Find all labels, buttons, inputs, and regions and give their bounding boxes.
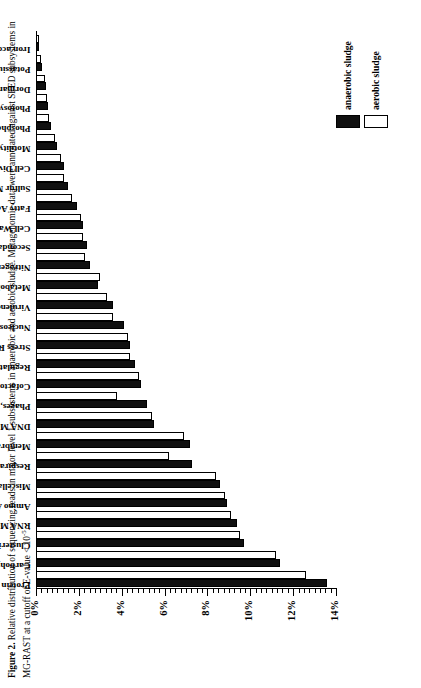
bar-anaerobic[interactable] [36, 400, 147, 408]
bar-group[interactable]: Carbohydrates [36, 548, 336, 568]
bar-anaerobic[interactable] [36, 321, 124, 329]
bar-anaerobic[interactable] [36, 82, 46, 90]
chart-legend: anaerobic sludgeaerobic sludge [336, 0, 392, 128]
bar-group[interactable]: Motility and Chemotaxis [36, 131, 336, 151]
bar-group[interactable]: Nucleosides and Nucleotides [36, 310, 336, 330]
bar-anaerobic[interactable] [36, 301, 113, 309]
bar-group[interactable]: Potassium metabolism [36, 52, 336, 72]
bar-group[interactable]: Clustering-based subsystems [36, 528, 336, 548]
bar-aerobic[interactable] [36, 392, 117, 400]
axis-tick-minor [234, 588, 235, 593]
bar-group[interactable]: Regulation and Cell signaling [36, 350, 336, 370]
bar-anaerobic[interactable] [36, 261, 90, 269]
bar-anaerobic[interactable] [36, 281, 98, 289]
bar-anaerobic[interactable] [36, 420, 154, 428]
bar-aerobic[interactable] [36, 233, 83, 241]
bar-group[interactable]: Secondary Metabolism [36, 231, 336, 251]
bar-anaerobic[interactable] [36, 460, 192, 468]
bar-aerobic[interactable] [36, 571, 306, 579]
bar-group[interactable]: Cell Division and Cell Cycle [36, 151, 336, 171]
bar-aerobic[interactable] [36, 75, 45, 83]
bar-anaerobic[interactable] [36, 43, 39, 51]
bar-group[interactable]: DNA Metabolism [36, 409, 336, 429]
bar-group[interactable]: Phages, Prophages, Transposable elements… [36, 389, 336, 409]
axis-tick-minor [299, 588, 300, 593]
bar-group[interactable]: Sulfur Metabolism [36, 171, 336, 191]
axis-tick-label: 14% [330, 600, 340, 648]
bar-anaerobic[interactable] [36, 499, 227, 507]
bar-anaerobic[interactable] [36, 202, 77, 210]
bar-group[interactable]: Cofactors, Vitamins, Prosthetic Groups, … [36, 370, 336, 390]
axis-tick-minor [84, 588, 85, 593]
bar-anaerobic[interactable] [36, 102, 48, 110]
bar-anaerobic[interactable] [36, 142, 57, 150]
bar-anaerobic[interactable] [36, 559, 280, 567]
bar-aerobic[interactable] [36, 174, 64, 182]
bar-aerobic[interactable] [36, 313, 113, 321]
bar-aerobic[interactable] [36, 452, 169, 460]
bar-anaerobic[interactable] [36, 380, 141, 388]
bar-anaerobic[interactable] [36, 221, 83, 229]
bar-anaerobic[interactable] [36, 440, 190, 448]
bar-anaerobic[interactable] [36, 122, 51, 130]
bar-aerobic[interactable] [36, 253, 85, 261]
legend-item[interactable]: aerobic sludge [364, 0, 388, 128]
bar-aerobic[interactable] [36, 372, 139, 380]
bar-group[interactable]: RNA Metabolism [36, 509, 336, 529]
axis-tick-minor [159, 588, 160, 593]
bar-group[interactable]: Nitrogen Metabolism [36, 250, 336, 270]
bar-group[interactable]: Iron acquisition and metabolism [36, 32, 336, 52]
bar-group[interactable]: Cell Wall and Capsule [36, 211, 336, 231]
bar-aerobic[interactable] [36, 55, 41, 63]
bar-anaerobic[interactable] [36, 579, 327, 587]
bar-anaerobic[interactable] [36, 360, 135, 368]
bar-aerobic[interactable] [36, 134, 55, 142]
bar-group[interactable]: Respiration [36, 449, 336, 469]
bar-aerobic[interactable] [36, 214, 81, 222]
bar-group[interactable]: Membrane Transport [36, 429, 336, 449]
bar-aerobic[interactable] [36, 353, 130, 361]
category-label: Clustering-based subsystems [0, 541, 30, 550]
bar-group[interactable]: Phosphorus Metabolism [36, 111, 336, 131]
axis-tick-minor [224, 588, 225, 593]
bar-aerobic[interactable] [36, 154, 61, 162]
bar-aerobic[interactable] [36, 293, 107, 301]
bar-group[interactable]: Protein Metabolism [36, 568, 336, 588]
bar-aerobic[interactable] [36, 531, 240, 539]
bar-anaerobic[interactable] [36, 241, 87, 249]
bar-aerobic[interactable] [36, 194, 72, 202]
bar-aerobic[interactable] [36, 492, 225, 500]
bar-group[interactable]: Photosynthesis [36, 92, 336, 112]
axis-tick-minor [57, 588, 58, 593]
bar-anaerobic[interactable] [36, 519, 237, 527]
bar-aerobic[interactable] [36, 432, 184, 440]
bar-anaerobic[interactable] [36, 63, 42, 71]
bar-anaerobic[interactable] [36, 341, 130, 349]
bar-aerobic[interactable] [36, 472, 216, 480]
bar-aerobic[interactable] [36, 551, 276, 559]
axis-tick-minor [154, 588, 155, 593]
bar-group[interactable]: Fatty Acids, Lipids, and Isoprenoids [36, 191, 336, 211]
bar-group[interactable]: Stress Response [36, 330, 336, 350]
bar-aerobic[interactable] [36, 511, 231, 519]
bar-aerobic[interactable] [36, 273, 100, 281]
bar-aerobic[interactable] [36, 94, 47, 102]
bar-group[interactable]: Amino Acids and Derivatives [36, 489, 336, 509]
bar-aerobic[interactable] [36, 35, 39, 43]
bar-anaerobic[interactable] [36, 480, 220, 488]
axis-tick-major [122, 588, 123, 596]
bar-group[interactable]: Metabolism of Aromatic Compounds [36, 270, 336, 290]
legend-item[interactable]: anaerobic sludge [336, 0, 360, 128]
bar-anaerobic[interactable] [36, 182, 68, 190]
bar-aerobic[interactable] [36, 412, 152, 420]
bar-group[interactable]: Miscellaneous [36, 469, 336, 489]
category-label: Fatty Acids, Lipids, and Isoprenoids [0, 204, 30, 213]
bar-group[interactable]: Virulence, Disease and Defense [36, 290, 336, 310]
bar-group[interactable]: Dormancy and Sporulation [36, 72, 336, 92]
axis-tick-minor [288, 588, 289, 593]
bar-anaerobic[interactable] [36, 162, 64, 170]
bar-aerobic[interactable] [36, 114, 49, 122]
category-label: Cell Wall and Capsule [0, 224, 30, 233]
bar-aerobic[interactable] [36, 333, 128, 341]
bar-anaerobic[interactable] [36, 539, 244, 547]
